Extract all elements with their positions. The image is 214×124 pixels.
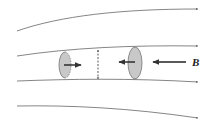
field-line-lower (17, 79, 198, 82)
field-label-b: B (192, 56, 199, 68)
field-line-top (17, 9, 198, 31)
left-cross-section (59, 52, 81, 78)
right-cross-section (119, 47, 142, 79)
field-line-upper (17, 46, 198, 56)
flux-tube-diagram (0, 0, 214, 124)
field-line-bottom (17, 106, 198, 118)
